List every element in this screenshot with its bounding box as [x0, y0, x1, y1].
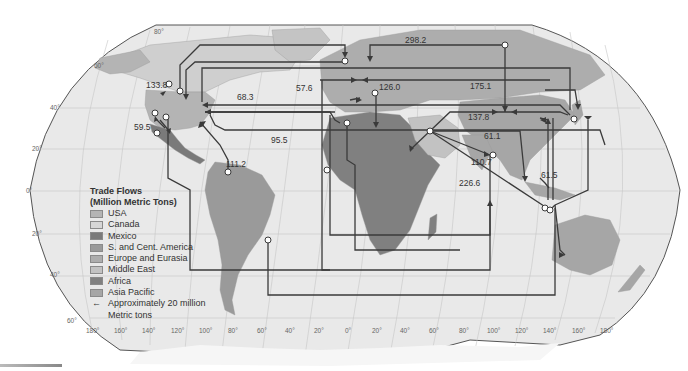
legend-label: Europe and Eurasia — [108, 253, 188, 264]
legend-subtitle: (Million Metric Tons) — [90, 197, 206, 208]
flow-value-label: 137.8 — [468, 112, 490, 122]
legend-swatch — [90, 244, 103, 252]
flow-value-label: 61.1 — [484, 131, 501, 141]
legend-label: USA — [108, 208, 127, 219]
flow-value-label: 126.0 — [379, 82, 401, 92]
legend-item-s-and-cent-america: S. and Cent. America — [90, 242, 206, 253]
legend-item-usa: USA — [90, 208, 206, 219]
longitude-label: 180° — [600, 327, 614, 334]
latitude-label: 40° — [50, 104, 60, 111]
longitude-label: 140° — [543, 327, 557, 334]
flow-value-label: 61.5 — [541, 170, 558, 180]
legend-swatch — [90, 221, 103, 229]
flow-value-label: 111.2 — [226, 159, 246, 169]
legend-swatch — [90, 289, 103, 297]
longitude-label: 160° — [114, 327, 128, 334]
legend-label: S. and Cent. America — [108, 242, 193, 253]
longitude-label: 160° — [572, 327, 586, 334]
longitude-label: 0° — [345, 327, 352, 334]
legend-swatch — [90, 255, 103, 263]
legend-swatch — [90, 277, 103, 285]
legend-item-asia-pacific: Asia Pacific — [90, 287, 206, 298]
longitude-label: 60° — [257, 327, 267, 334]
flow-value-label: 68.3 — [237, 92, 254, 102]
legend-title: Trade Flows — [90, 186, 206, 197]
legend-arrow-row: ← Approximately 20 million — [90, 298, 206, 309]
legend-swatch — [90, 210, 103, 218]
flow-value-label: 59.5 — [134, 122, 151, 132]
longitude-label: 140° — [142, 327, 156, 334]
longitude-label: 120° — [171, 327, 185, 334]
legend-swatch — [90, 266, 103, 274]
legend-label: Africa — [108, 276, 131, 287]
latitude-label: 60° — [94, 62, 104, 69]
arrow-left-icon: ← — [90, 298, 103, 309]
legend-swatch — [90, 232, 103, 240]
flow-value-label: 110.7 — [471, 157, 492, 167]
flow-value-label: 226.6 — [459, 178, 481, 188]
latitude-label: 20° — [32, 230, 42, 237]
legend-label: Mexico — [108, 231, 137, 242]
flow-value-label: 133.8 — [146, 80, 168, 90]
legend: Trade Flows (Million Metric Tons) USACan… — [90, 186, 206, 321]
flow-value-label: 95.5 — [271, 135, 288, 145]
legend-label: Canada — [108, 219, 140, 230]
legend-item-canada: Canada — [90, 219, 206, 230]
longitude-label: 60° — [429, 327, 439, 334]
latitude-label: 60° — [67, 317, 77, 324]
bottom-scroll-indicator — [0, 364, 62, 367]
longitude-label: 20° — [314, 327, 324, 334]
flow-value-label: 298.2 — [405, 35, 427, 45]
legend-item-mexico: Mexico — [90, 231, 206, 242]
longitude-label: 100° — [199, 327, 213, 334]
legend-item-europe-and-eurasia: Europe and Eurasia — [90, 253, 206, 264]
longitude-label: 100° — [487, 327, 501, 334]
legend-label: Middle East — [108, 264, 155, 275]
longitude-label: 80° — [228, 327, 238, 334]
legend-arrow-label: Approximately 20 million — [108, 298, 206, 309]
legend-label: Asia Pacific — [108, 287, 155, 298]
legend-arrow-label-2: Metric tons — [90, 310, 206, 321]
legend-items: USACanadaMexicoS. and Cent. AmericaEurop… — [90, 208, 206, 298]
longitude-label: 40° — [400, 327, 410, 334]
legend-item-africa: Africa — [90, 276, 206, 287]
longitude-label: 20° — [372, 327, 382, 334]
latitude-label: 40° — [50, 271, 60, 278]
legend-item-middle-east: Middle East — [90, 264, 206, 275]
latitude-label: 80° — [154, 28, 164, 35]
flow-value-label: 175.1 — [470, 81, 492, 91]
flow-value-label: 57.6 — [296, 83, 313, 93]
longitude-label: 40° — [285, 327, 295, 334]
longitude-label: 80° — [459, 327, 469, 334]
longitude-label: 120° — [515, 327, 529, 334]
longitude-label: 180° — [86, 327, 100, 334]
latitude-label: 20° — [32, 145, 42, 152]
latitude-label: 0° — [26, 187, 33, 194]
